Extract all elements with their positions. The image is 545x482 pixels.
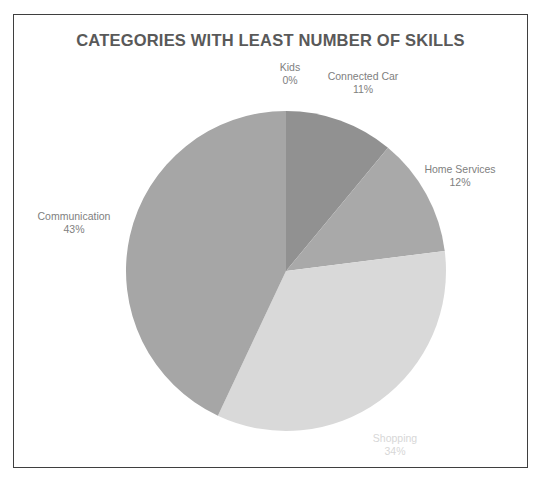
pie-label-home-services-value: 12% — [395, 176, 525, 189]
pie-label-connected-car-value: 11% — [293, 83, 433, 96]
pie-label-home-services: Home Services 12% — [395, 163, 525, 189]
pie-label-shopping: Shopping 34% — [330, 432, 460, 458]
chart-frame: CATEGORIES WITH LEAST NUMBER OF SKILLS K… — [13, 14, 528, 468]
pie-label-communication: Communication 43% — [9, 210, 139, 236]
pie-label-home-services-name: Home Services — [395, 163, 525, 176]
pie-label-communication-value: 43% — [9, 223, 139, 236]
pie-label-communication-name: Communication — [9, 210, 139, 223]
pie-label-shopping-name: Shopping — [330, 432, 460, 445]
pie-label-shopping-value: 34% — [330, 445, 460, 458]
pie-label-connected-car-name: Connected Car — [293, 70, 433, 83]
pie-slices-group — [126, 111, 446, 431]
pie-label-connected-car: Connected Car 11% — [293, 70, 433, 96]
